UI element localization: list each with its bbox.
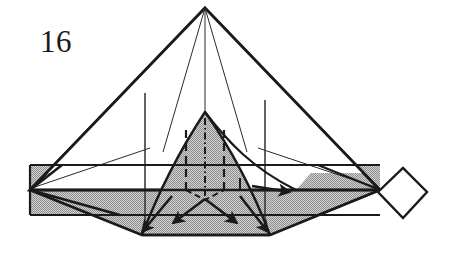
step-number-label: 16: [40, 24, 72, 59]
origami-step-figure: 16: [0, 0, 460, 271]
origami-diagram-svg: 16: [0, 0, 460, 271]
